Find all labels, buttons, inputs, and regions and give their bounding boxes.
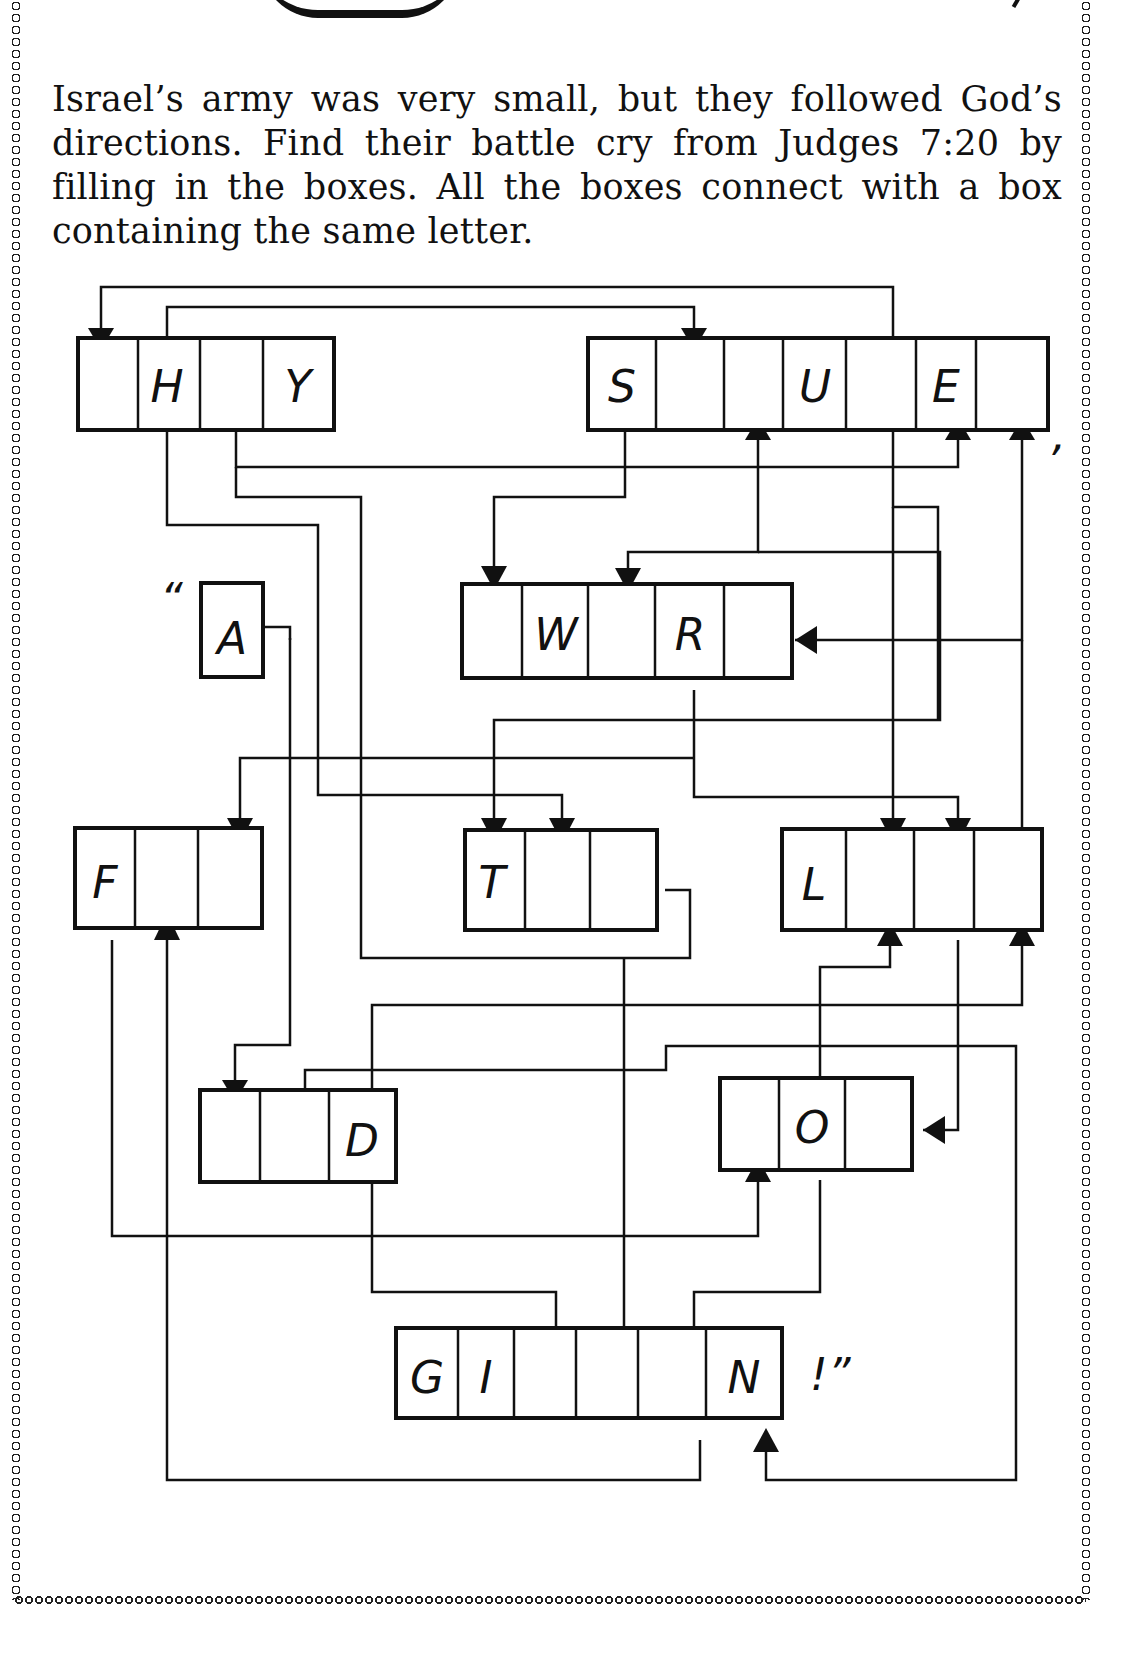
word-box-10 — [396, 1328, 782, 1418]
box5-cell-0[interactable]: F — [92, 857, 118, 908]
box10-cell-1[interactable]: I — [480, 1352, 493, 1403]
box7-cell-0[interactable]: L — [802, 859, 827, 910]
box8-cell-2[interactable]: D — [345, 1115, 379, 1166]
word-box-4 — [462, 584, 792, 678]
box2-cell-0[interactable]: S — [608, 361, 636, 412]
puzzle-diagram: H Y S U E , “ A W R F — [0, 0, 1143, 1657]
open-quote: “ — [160, 574, 183, 625]
box2-cell-5[interactable]: E — [932, 361, 960, 412]
box4-cell-1[interactable]: W — [534, 609, 579, 660]
box1-cell-3[interactable]: Y — [285, 361, 315, 412]
comma-punct: , — [1052, 409, 1066, 460]
box10-cell-0[interactable]: G — [410, 1352, 444, 1403]
box9-cell-1[interactable]: O — [795, 1102, 830, 1153]
box3-cell-0[interactable]: A — [214, 613, 247, 664]
box2-cell-3[interactable]: U — [799, 361, 831, 412]
box4-cell-3[interactable]: R — [675, 609, 706, 660]
box6-cell-0[interactable]: T — [479, 857, 509, 908]
box10-cell-5[interactable]: N — [728, 1352, 761, 1403]
box1-cell-1[interactable]: H — [150, 361, 183, 412]
close-punct: !” — [810, 1349, 852, 1400]
